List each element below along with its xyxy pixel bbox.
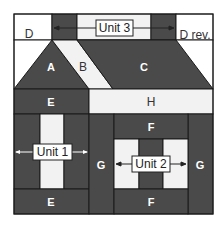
label-g-right: G (196, 159, 205, 171)
label-a: A (47, 61, 55, 73)
label-h: H (147, 95, 156, 109)
unit2-label: Unit 2 (135, 157, 167, 171)
label-f-bottom: F (148, 196, 155, 208)
label-d-rev: D rev. (179, 28, 210, 42)
unit1-label: Unit 1 (37, 145, 69, 159)
label-f-top: F (148, 121, 155, 133)
label-d: D (25, 27, 34, 41)
label-c: C (140, 61, 148, 73)
label-e-bottom: E (47, 196, 54, 208)
unit3-label: Unit 3 (99, 21, 131, 35)
quilt-block-diagram: Unit 3 Unit 1 Unit 2 D D rev. A B C E H … (0, 0, 224, 226)
label-b: B (79, 60, 87, 74)
label-g-left: G (97, 159, 106, 171)
label-e-top: E (47, 96, 54, 108)
